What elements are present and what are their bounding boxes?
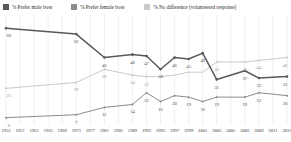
data-point-marker <box>187 58 190 61</box>
data-point-marker <box>146 76 148 78</box>
data-point-marker <box>103 68 105 70</box>
line-chart: % Prefer male boss % Prefer female boss … <box>0 0 291 142</box>
data-point-marker <box>131 74 133 76</box>
x-axis-tick-label: 1985 <box>114 128 123 134</box>
x-axis-tick-label: 1997 <box>170 128 179 134</box>
data-point-marker <box>216 96 218 98</box>
data-point-marker <box>244 96 246 98</box>
data-point-marker <box>215 78 218 81</box>
legend-item-female-boss: % Prefer female boss <box>71 4 124 10</box>
data-point-marker <box>258 77 261 80</box>
x-axis-tick-label: 1977 <box>86 128 95 134</box>
data-label: 12 <box>102 112 107 117</box>
x-axis-tick-label: 1969 <box>58 128 67 134</box>
legend-item-no-difference: % No difference (volunteered response) <box>144 4 236 10</box>
data-point-marker <box>174 95 176 97</box>
data-label: 44 <box>257 65 262 70</box>
legend-swatch-female-boss <box>71 4 77 10</box>
plot-area: 2529383433434344465712142216201916191922… <box>0 15 291 125</box>
data-label: 38 <box>158 74 163 79</box>
x-axis-tick-label: 1965 <box>44 128 53 134</box>
x-axis-tick-label: 2009 <box>254 128 263 134</box>
chart-legend: % Prefer male boss % Prefer female boss … <box>0 0 291 13</box>
data-label: 45 <box>186 64 191 69</box>
data-label: 31 <box>214 84 219 89</box>
x-axis-tick-label: 2001 <box>198 128 207 134</box>
data-label: 37 <box>243 75 248 80</box>
data-point-marker <box>103 56 106 59</box>
data-label: 16 <box>158 106 163 111</box>
data-label: 19 <box>214 102 219 107</box>
data-label: 46 <box>283 62 288 67</box>
legend-item-male-boss: % Prefer male boss <box>3 4 52 10</box>
data-point-marker <box>188 96 190 98</box>
data-point-marker <box>131 103 133 105</box>
x-axis-tick-label: 1995 <box>156 128 165 134</box>
legend-label-female-boss: % Prefer female boss <box>80 4 124 10</box>
legend-swatch-male-boss <box>3 4 9 10</box>
data-label: 20 <box>172 100 177 105</box>
x-axis-tick-label: 2006 <box>240 128 249 134</box>
data-label: 16 <box>200 106 205 111</box>
x-axis-tick-label: 1981 <box>100 128 109 134</box>
data-label: 32 <box>257 83 262 88</box>
data-label: 20 <box>283 100 288 105</box>
data-point-marker <box>159 68 162 71</box>
x-axis-tick-label: 1999 <box>184 128 193 134</box>
x-axis-tick-label: 1957 <box>15 128 24 134</box>
data-point-marker <box>202 101 204 103</box>
data-label: 47 <box>144 61 149 66</box>
data-label: 46 <box>172 62 177 67</box>
data-point-marker <box>5 27 8 30</box>
data-point-marker <box>75 114 77 116</box>
data-label: 43 <box>214 66 219 71</box>
data-label: 22 <box>257 97 262 102</box>
data-label: 14 <box>130 109 135 114</box>
data-point-marker <box>75 81 77 83</box>
legend-label-no-difference: % No difference (volunteered response) <box>153 4 236 10</box>
data-point-marker <box>286 75 289 78</box>
legend-swatch-no-difference <box>144 4 150 10</box>
data-point-marker <box>286 95 288 97</box>
x-axis-tick-label: 1989 <box>128 128 137 134</box>
data-label: 62 <box>74 39 79 44</box>
data-label: 19 <box>186 102 191 107</box>
data-label: 29 <box>74 87 79 92</box>
data-label: 7 <box>75 119 77 124</box>
data-point-marker <box>103 106 105 108</box>
data-point-marker <box>244 61 246 63</box>
x-axis-tick-label: 2013 <box>282 128 291 134</box>
data-point-marker <box>286 57 288 59</box>
data-point-marker <box>216 61 218 63</box>
data-point-marker <box>131 53 134 56</box>
data-label: 38 <box>102 74 107 79</box>
data-label: 33 <box>283 81 288 86</box>
data-label: 66 <box>7 33 12 38</box>
data-point-marker <box>201 52 204 55</box>
data-point-marker <box>5 87 7 89</box>
data-label: 33 <box>144 81 149 86</box>
data-label: 43 <box>243 66 248 71</box>
x-axis-tick-label: 1953 <box>1 128 10 134</box>
data-point-marker <box>5 117 7 119</box>
data-label: 25 <box>7 93 12 98</box>
x-axis-tick-label: 2003 <box>212 128 221 134</box>
data-label: 22 <box>144 97 149 102</box>
data-label: 49 <box>200 58 205 63</box>
data-label: 19 <box>243 102 248 107</box>
x-axis-tick-label: 2005 <box>226 128 235 134</box>
data-point-marker <box>75 33 78 36</box>
data-label: 34 <box>130 80 135 85</box>
data-point-marker <box>146 92 148 94</box>
data-label: 48 <box>130 59 135 64</box>
legend-label-male-boss: % Prefer male boss <box>12 4 52 10</box>
x-axis-tick-label: 2011 <box>268 128 277 134</box>
x-axis: 1953195719611965196919731977198119851989… <box>0 126 291 142</box>
x-axis-tick-label: 1961 <box>30 128 39 134</box>
data-point-marker <box>160 101 162 103</box>
data-point-marker <box>145 55 148 58</box>
x-axis-tick-label: 1993 <box>142 128 151 134</box>
data-point-marker <box>173 56 176 59</box>
data-point-marker <box>258 92 260 94</box>
x-axis-tick-label: 1973 <box>72 128 81 134</box>
